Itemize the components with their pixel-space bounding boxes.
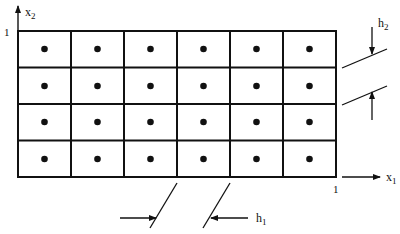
h2-dimension — [342, 27, 387, 120]
grid-diagram: x2 1 x1 1 h2 h1 — [0, 0, 400, 234]
y-axis: x2 1 — [4, 5, 36, 38]
h2-label: h2 — [378, 16, 389, 32]
x-max-label: 1 — [333, 183, 339, 195]
h1-dimension — [120, 183, 248, 228]
grid — [18, 31, 336, 177]
y-max-label: 1 — [4, 26, 10, 38]
h1-label: h1 — [256, 211, 267, 227]
x-axis: x1 1 — [333, 170, 397, 195]
x-axis-label: x1 — [386, 170, 397, 186]
y-axis-label: x2 — [25, 5, 36, 21]
